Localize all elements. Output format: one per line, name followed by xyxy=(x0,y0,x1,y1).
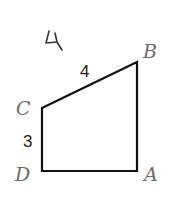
vertex-label-c: C xyxy=(16,97,31,119)
quadrilateral-figure: 4 3 B A C D xyxy=(0,0,170,201)
vertex-label-b: B xyxy=(142,40,157,62)
quadrilateral-abcd xyxy=(42,62,137,171)
vertex-label-a: A xyxy=(142,163,158,185)
figure-canvas: 4 3 B A C D xyxy=(0,0,170,201)
vertex-label-d: D xyxy=(14,163,30,185)
handwritten-problem-number xyxy=(46,31,62,50)
side-label-cb: 4 xyxy=(80,62,89,81)
side-label-cd: 3 xyxy=(23,132,32,151)
